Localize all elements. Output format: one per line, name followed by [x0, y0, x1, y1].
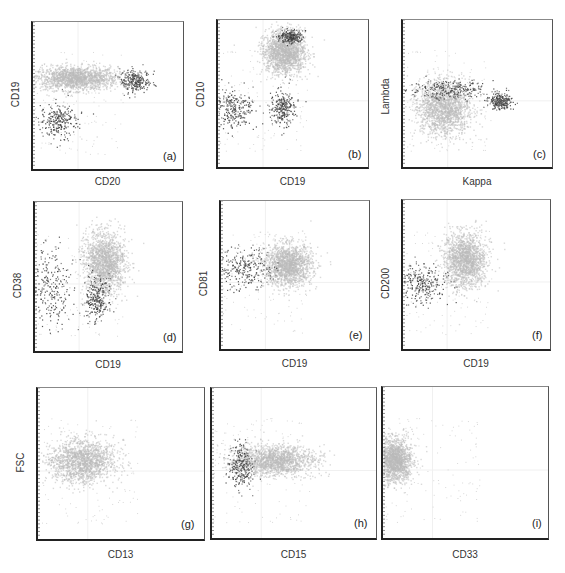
- y-axis-label: Lambda: [380, 67, 391, 127]
- scatter-points: [403, 200, 550, 349]
- scatter-plot-d: [33, 201, 183, 353]
- y-axis-label: FSC: [15, 433, 26, 493]
- scatter-points: [33, 22, 183, 169]
- y-axis-label: CD19: [10, 65, 21, 125]
- panel-tag: (i): [532, 517, 542, 529]
- scatter-plot-b: [216, 19, 369, 169]
- scatter-points: [212, 388, 376, 538]
- panel-tag: (c): [533, 148, 546, 160]
- scatter-plot-h: [210, 387, 377, 540]
- x-axis-label: CD33: [381, 549, 549, 560]
- panel-tag: (e): [349, 329, 362, 341]
- scatter-plot-f: [401, 199, 551, 351]
- scatter-points: [38, 388, 204, 539]
- x-axis-label: CD13: [36, 549, 205, 560]
- scatter-points: [221, 201, 369, 349]
- scatter-points: [403, 20, 552, 167]
- scatter-plot-a: [31, 21, 184, 171]
- y-axis-label: CD81: [198, 254, 209, 314]
- panel-tag: (b): [348, 148, 361, 160]
- x-axis-label: CD19: [33, 359, 183, 370]
- x-axis-label: CD19: [401, 358, 551, 369]
- panel-tag: (d): [163, 331, 176, 343]
- x-axis-label: CD15: [210, 549, 377, 560]
- panel-tag: (a): [163, 150, 176, 162]
- y-axis-label: CD10: [195, 65, 206, 125]
- panel-tag: (f): [532, 329, 542, 341]
- x-axis-label: CD19: [219, 358, 370, 369]
- scatter-points: [218, 20, 368, 167]
- scatter-plot-g: [36, 387, 205, 541]
- scatter-plot-i: [381, 386, 549, 540]
- scatter-points: [35, 202, 182, 351]
- x-axis-label: CD20: [31, 176, 184, 187]
- scatter-plot-e: [219, 200, 370, 351]
- y-axis-label: CD200: [380, 254, 391, 314]
- panel-tag: (g): [181, 518, 194, 530]
- panel-tag: (h): [354, 517, 367, 529]
- scatter-points: [383, 387, 548, 538]
- x-axis-label: CD19: [216, 176, 369, 187]
- scatter-plot-c: [401, 19, 553, 169]
- y-axis-label: CD38: [12, 256, 23, 316]
- x-axis-label: Kappa: [401, 176, 553, 187]
